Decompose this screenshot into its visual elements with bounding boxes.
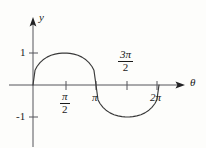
y-tick-label-minus1: -1 <box>16 111 25 122</box>
x-tick-label-2pi: 2π <box>150 92 161 103</box>
x-axis-label: θ <box>190 77 195 88</box>
x-tick-3pi-over-2-denominator: 2 <box>118 62 133 74</box>
x-tick-pi-over-2-denominator: 2 <box>60 104 70 116</box>
x-tick-label-pi-over-2: π 2 <box>60 91 70 115</box>
x-tick-3pi-over-2-numerator: 3π <box>118 49 133 62</box>
x-tick-label-3pi-over-2: 3π 2 <box>118 49 133 73</box>
y-axis-label: y <box>39 12 44 23</box>
figure-container: y θ 1 -1 π 2 π 3π 2 2π <box>0 0 206 148</box>
plot-canvas <box>0 0 206 148</box>
x-tick-label-pi: π <box>92 92 98 103</box>
y-tick-label-1: 1 <box>20 47 26 58</box>
x-tick-pi-over-2-numerator: π <box>60 91 70 104</box>
